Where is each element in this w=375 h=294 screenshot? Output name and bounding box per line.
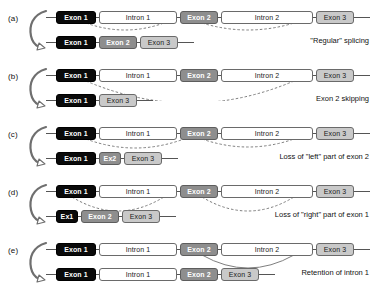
alternative-splicing-figure: (a)Exon 1Intron 1Exon 2Intron 2Exon 3Exo…	[0, 0, 375, 294]
segment-exon2-box: Exon 2	[81, 210, 119, 223]
panel-letter: (d)	[8, 188, 18, 197]
segment-intron-box: Intron 2	[221, 243, 313, 256]
segment-exon2-box: Exon 2	[180, 69, 218, 82]
transcript-tail-line	[259, 274, 275, 275]
segment-intron-box: Intron 1	[99, 127, 177, 140]
segment-exon1-box: Exon 1	[56, 268, 96, 281]
transcript-tail-line	[354, 133, 370, 134]
pre-mrna-transcript: Exon 1Intron 1Exon 2Intron 2Exon 3	[46, 125, 370, 141]
transcript-lead-line	[46, 17, 56, 18]
transcript-lead-line	[46, 216, 56, 217]
transcript-lead-line	[46, 42, 56, 43]
segment-intron-box: Intron 2	[221, 185, 313, 198]
panel-caption: Loss of "right" part of exon 1	[275, 210, 369, 219]
mature-mrna-transcript: Ex1Exon 2Exon 3	[46, 208, 176, 224]
transcript-lead-line	[46, 274, 56, 275]
mature-mrna-transcript: Exon 1Exon 3	[46, 92, 153, 108]
segment-exon2-box: Exon 2	[180, 243, 218, 256]
segment-exon2-box: Exon 2	[180, 127, 218, 140]
transcript-lead-line	[46, 133, 56, 134]
mature-mrna-transcript: Exon 1Intron 1Exon 2Exon 3	[46, 266, 275, 282]
segment-exon2-box: Exon 2	[180, 268, 218, 281]
transcript-tail-line	[178, 42, 194, 43]
splicing-panel: (d)Exon 1Intron 1Exon 2Intron 2Exon 3Ex1…	[0, 174, 375, 232]
segment-intron-box: Intron 1	[99, 11, 177, 24]
segment-exon2-box: Exon 2	[180, 11, 218, 24]
segment-exon1-box: Exon 1	[56, 11, 96, 24]
transcript-tail-line	[160, 216, 176, 217]
transcript-lead-line	[46, 100, 56, 101]
segment-exon3-box: Exon 3	[221, 268, 259, 281]
transcript-tail-line	[354, 75, 370, 76]
segment-exon3-box: Exon 3	[122, 210, 160, 223]
segment-intron-box: Intron 1	[99, 69, 177, 82]
segment-exon2-box: Exon 2	[180, 185, 218, 198]
splicing-panel: (b)Exon 1Intron 1Exon 2Intron 2Exon 3Exo…	[0, 58, 375, 116]
segment-intron-box: Intron 1	[99, 268, 177, 281]
segment-exon2-box: Ex2	[99, 152, 121, 165]
segment-intron-box: Intron 1	[99, 243, 177, 256]
panel-caption: Retention of intron 1	[301, 268, 369, 277]
transcript-tail-line	[354, 17, 370, 18]
transcript-tail-line	[162, 158, 178, 159]
mature-mrna-transcript: Exon 1Ex2Exon 3	[46, 150, 178, 166]
segment-exon1-box: Exon 1	[56, 69, 96, 82]
splicing-panel: (c)Exon 1Intron 1Exon 2Intron 2Exon 3Exo…	[0, 116, 375, 174]
panel-caption: "Regular" splicing	[310, 36, 369, 45]
splicing-panel: (e)Exon 1Intron 1Exon 2Intron 2Exon 3Exo…	[0, 232, 375, 290]
segment-exon3-box: Exon 3	[316, 185, 354, 198]
segment-exon1-box: Exon 1	[56, 243, 96, 256]
segment-exon3-box: Exon 3	[316, 69, 354, 82]
panel-caption: Loss of "left" part of exon 2	[279, 152, 369, 161]
segment-exon1-box: Ex1	[56, 210, 78, 223]
transcript-tail-line	[354, 191, 370, 192]
panel-letter: (a)	[8, 14, 18, 23]
transcript-lead-line	[46, 249, 56, 250]
segment-exon1-box: Exon 1	[56, 185, 96, 198]
segment-intron-box: Intron 2	[221, 127, 313, 140]
panel-letter: (c)	[8, 130, 18, 139]
segment-exon3-box: Exon 3	[316, 11, 354, 24]
segment-intron-box: Intron 1	[99, 185, 177, 198]
pre-mrna-transcript: Exon 1Intron 1Exon 2Intron 2Exon 3	[46, 67, 370, 83]
segment-exon1-box: Exon 1	[56, 94, 96, 107]
transcript-lead-line	[46, 75, 56, 76]
segment-exon1-box: Exon 1	[56, 36, 96, 49]
pre-mrna-transcript: Exon 1Intron 1Exon 2Intron 2Exon 3	[46, 9, 370, 25]
segment-intron-box: Intron 2	[221, 69, 313, 82]
pre-mrna-transcript: Exon 1Intron 1Exon 2Intron 2Exon 3	[46, 183, 370, 199]
segment-exon1-box: Exon 1	[56, 127, 96, 140]
segment-intron-box: Intron 2	[221, 11, 313, 24]
transcript-tail-line	[137, 100, 153, 101]
segment-exon3-box: Exon 3	[99, 94, 137, 107]
segment-exon3-box: Exon 3	[316, 243, 354, 256]
transcript-lead-line	[46, 191, 56, 192]
segment-exon1-box: Exon 1	[56, 152, 96, 165]
mature-mrna-transcript: Exon 1Exon 2Exon 3	[46, 34, 194, 50]
pre-mrna-transcript: Exon 1Intron 1Exon 2Intron 2Exon 3	[46, 241, 370, 257]
segment-exon2-box: Exon 2	[99, 36, 137, 49]
transcript-lead-line	[46, 158, 56, 159]
transcript-tail-line	[354, 249, 370, 250]
segment-exon3-box: Exon 3	[316, 127, 354, 140]
panel-letter: (b)	[8, 72, 18, 81]
splicing-panel: (a)Exon 1Intron 1Exon 2Intron 2Exon 3Exo…	[0, 0, 375, 58]
panel-caption: Exon 2 skipping	[316, 94, 369, 103]
segment-exon3-box: Exon 3	[140, 36, 178, 49]
segment-exon3-box: Exon 3	[124, 152, 162, 165]
panel-letter: (e)	[8, 246, 18, 255]
